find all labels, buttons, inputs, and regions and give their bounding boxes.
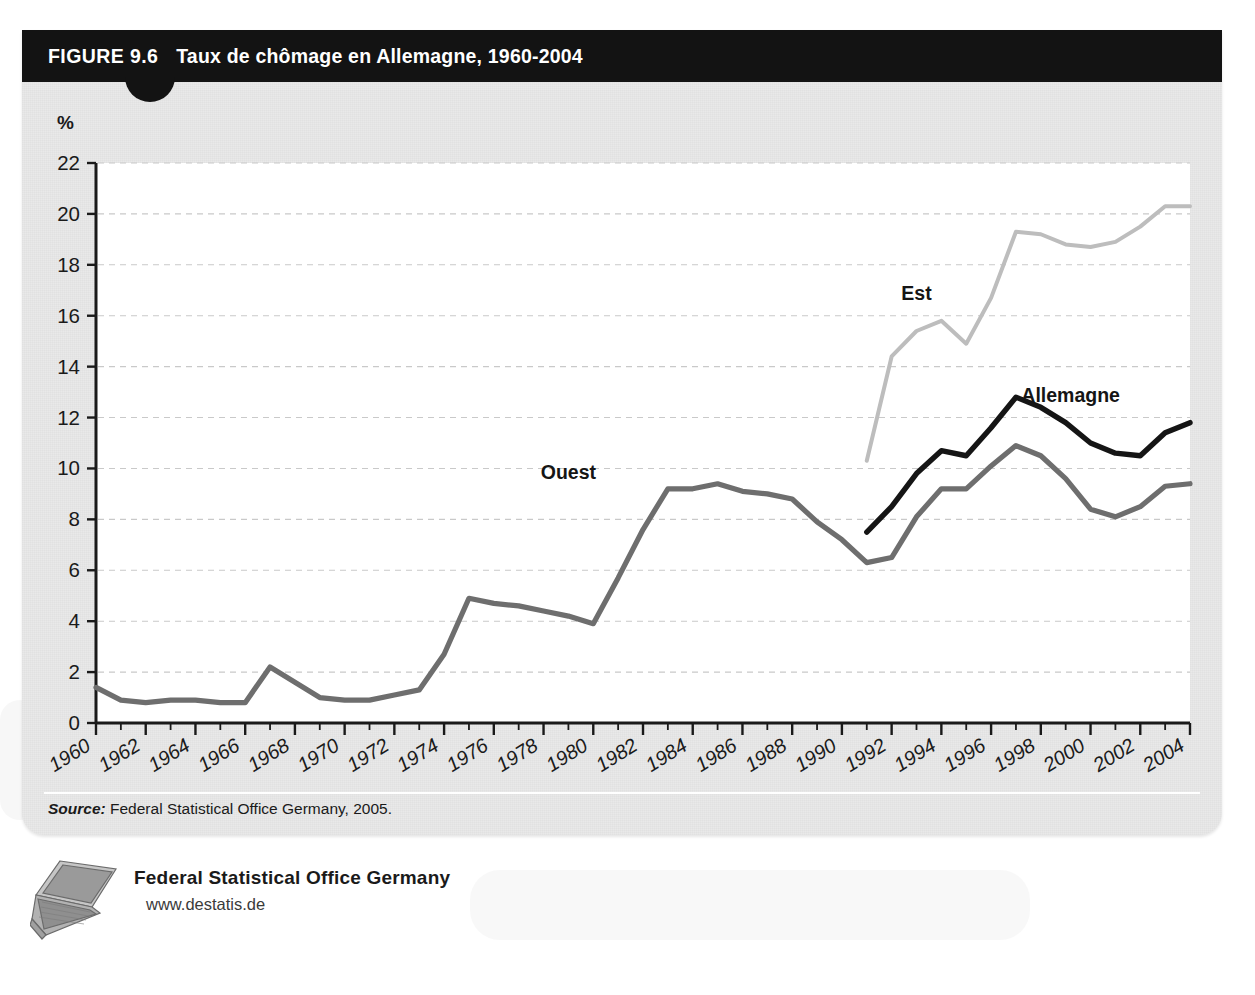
figure-header-bar: FIGURE 9.6 Taux de chômage en Allemagne,… <box>22 30 1222 82</box>
page-smudge-bottom <box>470 870 1030 940</box>
y-axis-unit-label: % <box>57 112 74 134</box>
source-text: Federal Statistical Office Germany, 2005… <box>106 800 392 817</box>
figure-number: FIGURE 9.6 <box>48 45 158 68</box>
source-line: Source: Federal Statistical Office Germa… <box>48 800 392 818</box>
plot-surface <box>96 163 1190 723</box>
organisation-name: Federal Statistical Office Germany <box>134 867 450 889</box>
organisation-url: www.destatis.de <box>134 895 450 914</box>
laptop-icon <box>30 855 122 945</box>
figure-title: Taux de chômage en Allemagne, 1960-2004 <box>176 45 583 68</box>
source-divider <box>44 792 1200 794</box>
footer-organisation-block: Federal Statistical Office Germany www.d… <box>30 855 450 965</box>
source-label: Source: <box>48 800 106 817</box>
